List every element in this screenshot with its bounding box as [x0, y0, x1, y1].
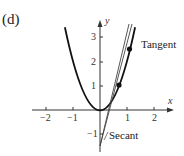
- y-axis-label: y: [104, 15, 110, 26]
- graph: −2 −1 1 2 3 2 1 −1 x y Tangent Secant: [0, 0, 184, 156]
- y-tick-label: 3: [91, 31, 96, 42]
- point-marker: [127, 46, 132, 51]
- tangent-label: Tangent: [141, 38, 176, 50]
- x-axis-arrow-icon: [167, 108, 174, 113]
- y-tick-label: −1: [87, 128, 98, 139]
- point-marker: [116, 82, 121, 87]
- x-tick-label: −1: [67, 112, 78, 123]
- y-axis-arrow-icon: [98, 20, 103, 27]
- y-tick-label: 1: [91, 80, 96, 91]
- y-tick-label: 2: [91, 56, 96, 67]
- secant-leader-line: [104, 132, 108, 140]
- secant-label: Secant: [109, 129, 138, 141]
- x-tick-label: 1: [125, 112, 130, 123]
- x-axis-label: x: [167, 95, 173, 106]
- x-tick-label: −2: [40, 112, 51, 123]
- secant-line: [100, 24, 129, 146]
- x-tick-label: 2: [152, 112, 157, 123]
